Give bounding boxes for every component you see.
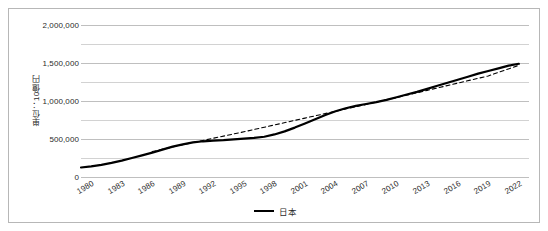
chart-frame: 単位：10億円 0500,0001,000,0001,500,0002,000,…	[8, 8, 540, 223]
x-tick-label: 2010	[374, 179, 401, 200]
x-tick-label: 2004	[313, 179, 340, 200]
x-tick-label: 2013	[404, 179, 431, 200]
x-tick-label: 1998	[252, 179, 279, 200]
x-tick-label: 1983	[99, 179, 126, 200]
x-tick-label: 2001	[282, 179, 309, 200]
x-tick-label: 2019	[466, 179, 493, 200]
y-tick-label: 0	[74, 173, 79, 182]
legend-line-swatch	[254, 210, 274, 212]
x-tick-label: 2022	[496, 179, 523, 200]
x-tick-label: 1992	[191, 179, 218, 200]
legend-label: 日本	[279, 205, 297, 217]
series-line	[81, 64, 519, 168]
data-series-layer	[81, 25, 529, 177]
y-tick-label: 1,000,000	[43, 97, 80, 106]
plot-area	[81, 25, 529, 177]
x-tick-label: 2016	[435, 179, 462, 200]
y-tick-label: 2,000,000	[43, 21, 80, 30]
x-tick-label: 2007	[343, 179, 370, 200]
x-tick-label: 1986	[130, 179, 157, 200]
x-tick-label: 1995	[221, 179, 248, 200]
y-tick-label: 1,500,000	[43, 59, 80, 68]
chart-legend: 日本	[9, 205, 541, 217]
gridline-major	[81, 177, 529, 178]
y-tick-label: 500,000	[49, 135, 79, 144]
x-tick-label: 1989	[160, 179, 187, 200]
